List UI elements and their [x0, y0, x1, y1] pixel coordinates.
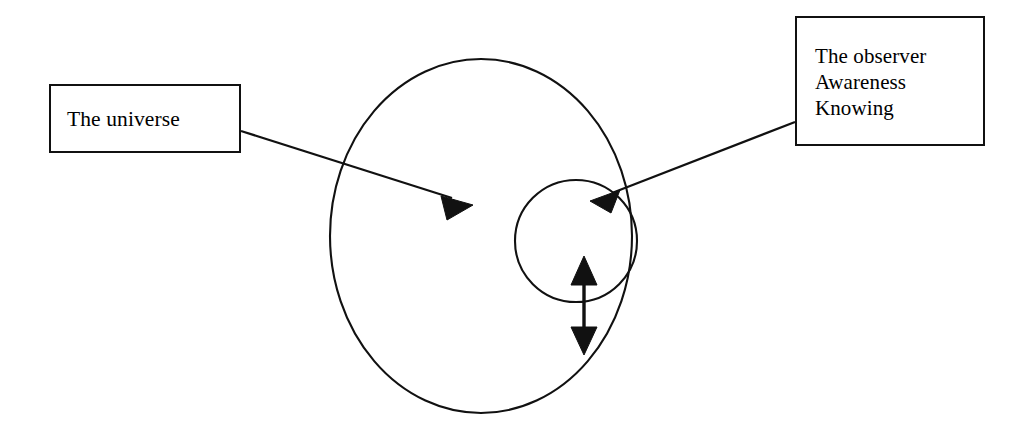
observer-label-line-1: The observer	[815, 43, 983, 69]
observer-label-line-2: Awareness	[815, 69, 983, 95]
bidirectional-vertical-arrow	[571, 256, 597, 355]
observer-label-line-3: Knowing	[815, 95, 983, 121]
observer-label-box: The observer Awareness Knowing	[795, 16, 985, 146]
diagram-canvas: The universe The observer Awareness Know…	[0, 0, 1032, 442]
arrowhead-icon	[590, 190, 620, 213]
universe-circle	[330, 59, 632, 413]
universe-label-box: The universe	[49, 84, 241, 153]
universe-label-text: The universe	[67, 106, 239, 132]
arrowhead-icon	[441, 196, 473, 220]
universe-pointer-arrow	[241, 131, 473, 220]
arrowhead-down-icon	[571, 327, 597, 355]
arrowhead-up-icon	[571, 256, 597, 285]
